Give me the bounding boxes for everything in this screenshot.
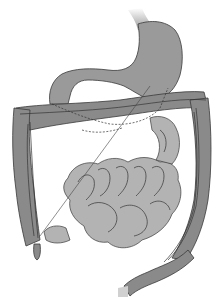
appendix — [34, 244, 41, 260]
sigmoid-colon — [124, 250, 194, 296]
stomach — [50, 22, 183, 104]
dashed-outline-lower — [82, 128, 122, 132]
small-intestine — [44, 116, 181, 247]
rectum-stub — [118, 286, 128, 297]
digestive-tract-illustration — [0, 0, 219, 297]
